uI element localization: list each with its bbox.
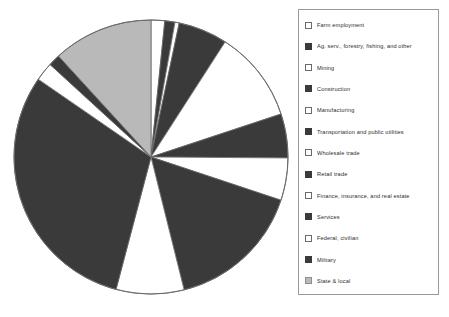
legend-swatch-icon	[305, 128, 312, 135]
legend-swatch-icon	[305, 192, 312, 199]
legend-item-label: Mining	[317, 59, 334, 77]
legend-item-label: Farm employment	[317, 16, 364, 34]
legend-item-label: Transportation and public utilities	[317, 123, 404, 141]
legend-item-label: State & local	[317, 272, 350, 290]
legend-swatch-icon	[305, 256, 312, 263]
pie-slice-group	[14, 20, 288, 294]
legend-swatch-icon	[305, 64, 312, 71]
legend-item[interactable]: Farm employment	[305, 16, 434, 34]
legend-item[interactable]: Retail trade	[305, 165, 434, 183]
legend-item[interactable]: Construction	[305, 80, 434, 98]
legend-swatch-icon	[305, 85, 312, 92]
legend-item[interactable]: Ag. serv., forestry, fishing, and other	[305, 37, 434, 55]
legend-item-label: Ag. serv., forestry, fishing, and other	[317, 37, 412, 55]
legend-item[interactable]: Services	[305, 208, 434, 226]
legend-item[interactable]: Military	[305, 251, 434, 269]
legend-item-label: Manufacturing	[317, 101, 354, 119]
legend-item-label: Federal, civilian	[317, 229, 358, 247]
legend-swatch-icon	[305, 43, 312, 50]
legend-item-label: Retail trade	[317, 165, 347, 183]
legend-item[interactable]: Finance, insurance, and real estate	[305, 187, 434, 205]
legend-item-label: Wholesale trade	[317, 144, 360, 162]
legend-swatch-icon	[305, 107, 312, 114]
legend-item[interactable]: Manufacturing	[305, 101, 434, 119]
legend-item-label: Services	[317, 208, 340, 226]
legend-swatch-icon	[305, 149, 312, 156]
legend-item[interactable]: Wholesale trade	[305, 144, 434, 162]
legend-item[interactable]: Federal, civilian	[305, 229, 434, 247]
legend: Farm employmentAg. serv., forestry, fish…	[298, 9, 439, 295]
legend-swatch-icon	[305, 235, 312, 242]
legend-swatch-icon	[305, 277, 312, 284]
pie-chart-figure: Farm employmentAg. serv., forestry, fish…	[0, 0, 449, 317]
legend-item[interactable]: Transportation and public utilities	[305, 123, 434, 141]
legend-swatch-icon	[305, 213, 312, 220]
legend-item-label: Construction	[317, 80, 350, 98]
legend-item[interactable]: State & local	[305, 272, 434, 290]
pie-chart-svg	[0, 0, 292, 300]
legend-swatch-icon	[305, 171, 312, 178]
pie-chart-plot-area	[0, 0, 292, 300]
legend-item[interactable]: Mining	[305, 59, 434, 77]
legend-item-label: Finance, insurance, and real estate	[317, 187, 410, 205]
legend-item-label: Military	[317, 251, 336, 269]
legend-swatch-icon	[305, 22, 312, 29]
